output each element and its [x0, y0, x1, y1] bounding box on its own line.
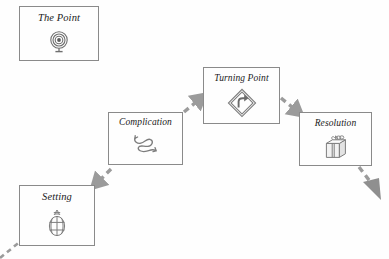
- turn-right-road-sign-icon: [204, 84, 279, 124]
- node-complication[interactable]: Complication: [108, 112, 183, 165]
- node-turning-point[interactable]: Turning Point: [203, 67, 280, 124]
- node-label-resolution: Resolution: [315, 119, 357, 129]
- hot-air-balloon-icon: [20, 203, 94, 246]
- node-label-complication: Complication: [119, 118, 172, 128]
- gift-box-icon: [300, 129, 371, 166]
- node-setting[interactable]: Setting: [19, 185, 95, 246]
- connector-resolution-outbound: [359, 167, 381, 200]
- connector-complication-to-turning-point: [184, 98, 201, 112]
- node-label-setting: Setting: [42, 192, 72, 203]
- connector-turning-point-to-resolution: [281, 98, 298, 112]
- node-label-turning-point: Turning Point: [214, 74, 268, 84]
- connector-setting-to-complication: [96, 169, 111, 184]
- target-bullseye-icon: [20, 22, 98, 61]
- node-the-point[interactable]: The Point: [19, 6, 99, 61]
- diagram-canvas: The Point Setting: [0, 0, 389, 259]
- tangled-knot-icon: [109, 128, 182, 165]
- node-resolution[interactable]: Resolution: [299, 112, 372, 166]
